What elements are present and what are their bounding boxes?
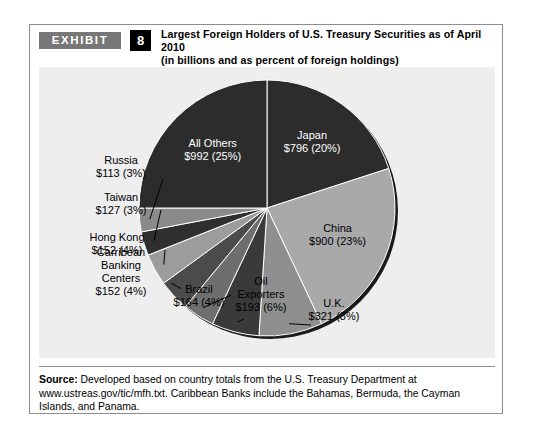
exhibit-number-badge: 8 xyxy=(130,30,151,51)
source-label: Source: xyxy=(39,374,78,385)
pie-slice-label: Taiwan$127 (3%) xyxy=(96,191,147,216)
pie-slice-label: All Others$992 (25%) xyxy=(184,137,241,162)
source-divider xyxy=(39,366,495,367)
exhibit-figure: EXHIBIT 8 Largest Foreign Holders of U.S… xyxy=(29,24,503,414)
pie-chart: Japan$796 (20%)China$900 (23%)U.K.$321 (… xyxy=(39,67,495,358)
source-note: Source: Developed based on country total… xyxy=(39,373,495,414)
pie-slice-label: Russia$113 (3%) xyxy=(96,154,146,179)
exhibit-subtitle: (in billions and as percent of foreign h… xyxy=(161,54,496,67)
source-text: Developed based on country totals from t… xyxy=(39,374,460,412)
chart-panel: Japan$796 (20%)China$900 (23%)U.K.$321 (… xyxy=(39,67,495,358)
page-title: Largest Foreign Holders of U.S. Treasury… xyxy=(161,28,496,54)
exhibit-header: EXHIBIT 8 Largest Foreign Holders of U.S… xyxy=(30,25,502,67)
pie-slice-label: Hong Kong$152 (4%) xyxy=(89,231,144,256)
exhibit-badge: EXHIBIT xyxy=(39,32,121,49)
pie-chart-svg: Japan$796 (20%)China$900 (23%)U.K.$321 (… xyxy=(39,67,495,358)
exhibit-title-block: Largest Foreign Holders of U.S. Treasury… xyxy=(161,28,496,67)
